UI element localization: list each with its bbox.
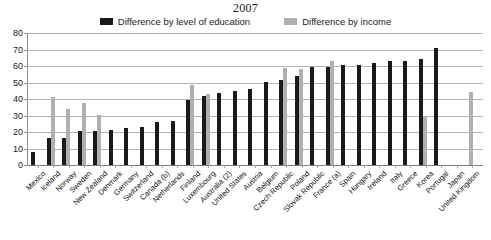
bar-education: [388, 61, 392, 165]
bar-education: [264, 82, 268, 165]
bar-education: [419, 59, 423, 165]
bar-group: [93, 33, 109, 165]
bar-education: [233, 91, 237, 165]
bar-group: [465, 33, 481, 165]
x-tick: [286, 165, 287, 168]
y-axis-label-80: 80: [0, 29, 23, 38]
x-tick: [146, 165, 147, 168]
y-axis-label-10: 10: [0, 144, 23, 153]
y-tick-30: [24, 116, 27, 117]
y-tick-10: [24, 149, 27, 150]
bar-education: [62, 138, 66, 165]
x-tick: [317, 165, 318, 168]
x-tick: [426, 165, 427, 168]
bar-education: [124, 128, 128, 165]
bar-group: [419, 33, 435, 165]
bar-group: [264, 33, 280, 165]
y-axis-label-70: 70: [0, 45, 23, 54]
bar-group: [124, 33, 140, 165]
bar-education: [78, 131, 82, 165]
bar-education: [248, 89, 252, 165]
bar-education: [372, 63, 376, 165]
y-axis-label-60: 60: [0, 62, 23, 71]
bar-education: [31, 152, 35, 165]
x-tick: [131, 165, 132, 168]
bar-income: [66, 109, 70, 165]
bar-education: [217, 93, 221, 165]
x-tick: [395, 165, 396, 168]
bar-income: [423, 116, 427, 166]
chart-container: 2007 Difference by level of education Di…: [0, 0, 491, 240]
y-axis-label-40: 40: [0, 95, 23, 104]
x-tick: [472, 165, 473, 168]
bar-education: [403, 61, 407, 165]
bar-education: [109, 130, 113, 165]
x-tick: [410, 165, 411, 168]
legend-swatch-education: [100, 18, 113, 25]
bar-group: [341, 33, 357, 165]
bar-group: [47, 33, 63, 165]
bar-income: [97, 115, 101, 165]
bar-education: [202, 96, 206, 165]
y-tick-20: [24, 132, 27, 133]
bar-group: [202, 33, 218, 165]
bar-income: [469, 92, 473, 165]
legend-item-education: Difference by level of education: [100, 16, 250, 27]
bar-income: [82, 103, 86, 165]
legend-swatch-income: [284, 18, 297, 25]
bar-group: [295, 33, 311, 165]
x-tick: [162, 165, 163, 168]
legend-label-education: Difference by level of education: [118, 16, 250, 27]
bar-education: [310, 67, 314, 165]
bar-group: [357, 33, 373, 165]
bar-education: [186, 100, 190, 165]
bar-group: [450, 33, 466, 165]
y-axis-label-20: 20: [0, 128, 23, 137]
plot-area: [27, 33, 483, 165]
chart-title: 2007: [0, 1, 491, 15]
bar-education: [357, 65, 361, 165]
x-tick: [84, 165, 85, 168]
x-tick: [441, 165, 442, 168]
x-tick: [224, 165, 225, 168]
y-tick-40: [24, 99, 27, 100]
y-tick-60: [24, 66, 27, 67]
bar-group: [140, 33, 156, 165]
bar-group: [109, 33, 125, 165]
bar-group: [372, 33, 388, 165]
bar-income: [283, 68, 287, 165]
bar-income: [51, 97, 55, 165]
y-tick-50: [24, 83, 27, 84]
y-axis-label-0: 0: [0, 161, 23, 170]
legend-label-income: Difference by income: [302, 16, 391, 27]
x-tick: [457, 165, 458, 168]
bar-education: [434, 48, 438, 165]
bar-income: [330, 61, 334, 165]
bar-income: [299, 69, 303, 165]
x-tick: [255, 165, 256, 168]
chart-legend: Difference by level of education Differe…: [0, 16, 491, 27]
bar-education: [341, 65, 345, 165]
x-tick: [364, 165, 365, 168]
bar-income: [190, 85, 194, 165]
y-tick-70: [24, 50, 27, 51]
y-axis-label-30: 30: [0, 111, 23, 120]
x-tick: [379, 165, 380, 168]
x-tick: [69, 165, 70, 168]
y-axis-label-50: 50: [0, 78, 23, 87]
x-axis-labels: MexicoIcelandNorwaySwedenNew ZealandDenm…: [27, 165, 483, 240]
bar-group: [326, 33, 342, 165]
bar-group: [248, 33, 264, 165]
bar-education: [47, 138, 51, 165]
bar-group: [434, 33, 450, 165]
bar-education: [295, 76, 299, 165]
bar-education: [326, 67, 330, 166]
bar-group: [310, 33, 326, 165]
bar-group: [217, 33, 233, 165]
bar-education: [155, 122, 159, 165]
bar-group: [403, 33, 419, 165]
bar-group: [186, 33, 202, 165]
x-tick: [53, 165, 54, 168]
bar-group: [171, 33, 187, 165]
bar-education: [140, 127, 144, 165]
